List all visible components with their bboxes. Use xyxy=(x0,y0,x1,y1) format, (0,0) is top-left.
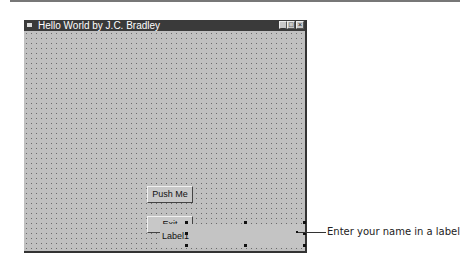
resize-handle-br[interactable] xyxy=(303,244,306,247)
resize-handle-tm[interactable] xyxy=(244,221,247,224)
push-me-button[interactable]: Push Me xyxy=(147,186,193,203)
callout-text: Enter your name in a label xyxy=(327,226,460,237)
resize-handle-bm[interactable] xyxy=(244,244,247,247)
resize-handle-tl[interactable] xyxy=(185,221,188,224)
resize-handle-ml[interactable] xyxy=(185,232,188,235)
minimize-button[interactable]: _ xyxy=(279,21,287,29)
callout-line xyxy=(298,232,326,233)
resize-handle-bl[interactable] xyxy=(185,244,188,247)
close-button[interactable]: × xyxy=(296,21,304,29)
top-rule xyxy=(10,0,460,2)
window-title: Hello World by J.C. Bradley xyxy=(38,20,160,31)
title-bar[interactable]: Hello World by J.C. Bradley _ □ × xyxy=(24,20,305,31)
app-icon xyxy=(27,23,32,27)
resize-handle-tr[interactable] xyxy=(303,221,306,224)
maximize-button[interactable]: □ xyxy=(287,21,295,29)
